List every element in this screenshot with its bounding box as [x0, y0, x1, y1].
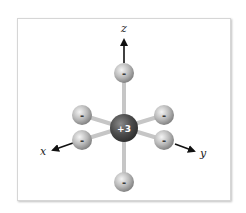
svg-text:-: -	[122, 177, 126, 188]
ligand-bottom: -	[114, 172, 134, 192]
y-axis-label: y	[199, 147, 207, 160]
z-axis: z	[120, 22, 127, 63]
svg-text:-: -	[162, 135, 166, 146]
x-axis-label: x	[40, 145, 47, 158]
z-axis-label: z	[120, 22, 127, 35]
ligand-upper-right: -	[154, 105, 174, 125]
central-ion: +3	[110, 114, 138, 142]
svg-text:-: -	[162, 110, 166, 121]
ligand-top: -	[114, 63, 134, 83]
ligand-lower-right: -	[154, 130, 174, 150]
octahedral-diagram: z x y - - - +3 - - -	[0, 0, 246, 213]
svg-text:-: -	[122, 68, 126, 79]
central-ion-charge: +3	[117, 124, 131, 134]
ligand-upper-left: -	[72, 105, 92, 125]
svg-text:-: -	[80, 110, 84, 121]
ligand-lower-left: -	[72, 130, 92, 150]
y-axis: y	[175, 144, 207, 160]
x-axis: x	[40, 143, 73, 158]
svg-text:-: -	[80, 135, 84, 146]
